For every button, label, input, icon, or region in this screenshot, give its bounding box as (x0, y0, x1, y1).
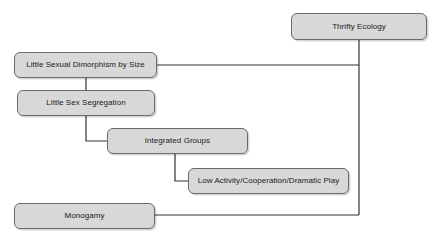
node-label: Low Activity/Cooperation/Dramatic Play (192, 177, 346, 185)
node-low-activity-cooperation-dramatic-play[interactable]: Low Activity/Cooperation/Dramatic Play (188, 168, 349, 194)
node-thrifty-ecology[interactable]: Thrifty Ecology (291, 13, 427, 40)
node-label: Little Sexual Dimorphism by Size (20, 61, 151, 69)
node-label: Integrated Groups (139, 137, 216, 145)
connector-integrated-groups-to-low-activity (175, 154, 188, 181)
node-little-sexual-dimorphism-by-size[interactable]: Little Sexual Dimorphism by Size (14, 52, 157, 78)
node-monogamy[interactable]: Monogamy (14, 203, 155, 229)
node-little-sex-segregation[interactable]: Little Sex Segregation (17, 90, 155, 116)
node-label: Little Sex Segregation (40, 99, 131, 107)
node-label: Thrifty Ecology (326, 23, 392, 31)
diagram-canvas: Thrifty Ecology Little Sexual Dimorphism… (0, 0, 441, 240)
connector-sex-segregation-to-integrated-groups (86, 116, 107, 141)
node-label: Monogamy (59, 212, 111, 220)
node-integrated-groups[interactable]: Integrated Groups (107, 128, 248, 154)
